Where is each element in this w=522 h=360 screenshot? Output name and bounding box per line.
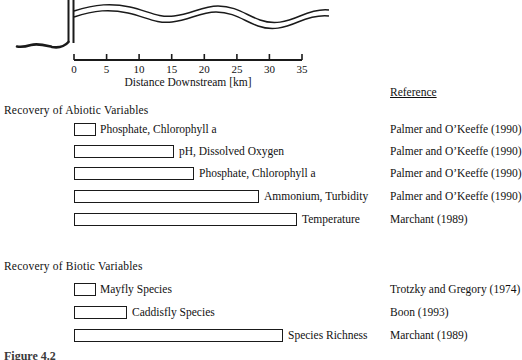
reference-label: Palmer and O’Keeffe (1990) <box>390 144 522 159</box>
table-row: Mayfly Species Trotzky and Gregory (1974… <box>0 281 522 299</box>
recovery-bar <box>74 283 96 296</box>
bar-label: Phosphate, Chlorophyll a <box>100 122 217 137</box>
bar-label: Mayfly Species <box>100 282 172 297</box>
table-row: pH, Dissolved Oxygen Palmer and O’Keeffe… <box>0 143 522 161</box>
reference-label: Marchant (1989) <box>390 328 468 343</box>
reference-column-header: Reference <box>390 86 437 98</box>
reference-label: Palmer and O’Keeffe (1990) <box>390 166 522 181</box>
reference-label: Palmer and O’Keeffe (1990) <box>390 189 522 204</box>
dam-base-bed <box>17 42 69 47</box>
bar-label: Temperature <box>302 212 360 227</box>
axis-tick-label-20: 20 <box>191 63 217 75</box>
table-row: Ammonium, Turbidity Palmer and O’Keeffe … <box>0 188 522 206</box>
axis-tick-label-35: 35 <box>289 63 315 75</box>
distance-axis: 0 5 10 15 20 25 30 35 Distance Downstrea… <box>0 50 330 95</box>
bar-label: Species Richness <box>288 328 368 343</box>
dam-wall-icon <box>69 0 74 43</box>
figure-recovery-downstream: 0 5 10 15 20 25 30 35 Distance Downstrea… <box>0 0 522 360</box>
recovery-bar <box>74 329 283 342</box>
reference-label: Trotzky and Gregory (1974) <box>390 282 520 297</box>
recovery-bar <box>74 167 194 180</box>
recovery-bar <box>74 190 259 203</box>
table-row: Species Richness Marchant (1989) <box>0 327 522 345</box>
axis-tick-label-5: 5 <box>94 63 120 75</box>
table-row: Phosphate, Chlorophyll a Palmer and O’Ke… <box>0 121 522 139</box>
axis-tick-label-25: 25 <box>224 63 250 75</box>
reference-label: Marchant (1989) <box>390 212 468 227</box>
figure-caption: Figure 4.2 <box>4 349 56 360</box>
reference-label: Palmer and O’Keeffe (1990) <box>390 122 522 137</box>
section-heading-abiotic: Recovery of Abiotic Variables <box>4 104 149 116</box>
recovery-bar <box>74 123 96 136</box>
table-row: Caddisfly Species Boon (1993) <box>0 304 522 322</box>
axis-tick-label-15: 15 <box>159 63 185 75</box>
table-row: Phosphate, Chlorophyll a Palmer and O’Ke… <box>0 165 522 183</box>
bar-label: Ammonium, Turbidity <box>264 189 368 204</box>
axis-tick-label-30: 30 <box>256 63 282 75</box>
axis-tick-label-0: 0 <box>61 63 87 75</box>
recovery-bar <box>74 213 297 226</box>
recovery-bar <box>74 306 127 319</box>
section-heading-biotic: Recovery of Biotic Variables <box>4 260 143 272</box>
bar-label: Caddisfly Species <box>132 305 215 320</box>
reference-label: Boon (1993) <box>390 305 448 320</box>
bar-label: Phosphate, Chlorophyll a <box>199 166 316 181</box>
table-row: Temperature Marchant (1989) <box>0 211 522 229</box>
axis-title: Distance Downstream [km] <box>74 76 302 89</box>
bar-label: pH, Dissolved Oxygen <box>179 144 284 159</box>
axis-tick-label-10: 10 <box>126 63 152 75</box>
recovery-bar <box>74 145 174 158</box>
